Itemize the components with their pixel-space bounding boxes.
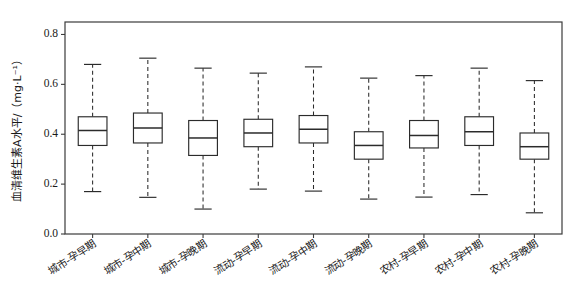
y-axis-label: 血清维生素A水平/（mg·L⁻¹） bbox=[10, 54, 24, 202]
x-tick-label: 流动-孕早期 bbox=[212, 238, 264, 277]
x-tick-label: 流动-孕晚期 bbox=[322, 238, 374, 277]
x-tick-label: 城市-孕早期 bbox=[46, 238, 98, 277]
y-tick-label: 0.0 bbox=[44, 227, 59, 239]
x-tick-label: 农村-孕晚期 bbox=[488, 238, 540, 277]
y-tick-label: 0.8 bbox=[44, 27, 59, 39]
x-tick-label: 城市-孕中期 bbox=[101, 238, 153, 277]
x-tick-label: 农村-孕中期 bbox=[433, 238, 485, 277]
x-tick-label: 流动-孕中期 bbox=[267, 238, 319, 277]
y-tick-label: 0.4 bbox=[44, 127, 59, 139]
y-tick-label: 0.6 bbox=[44, 77, 59, 89]
x-tick-label: 城市-孕晚期 bbox=[156, 238, 208, 277]
chart-svg: 0.00.20.40.60.8血清维生素A水平/（mg·L⁻¹）城市-孕早期城市… bbox=[0, 0, 580, 300]
x-tick-label: 农村-孕早期 bbox=[377, 238, 429, 277]
boxplot-figure: 0.00.20.40.60.8血清维生素A水平/（mg·L⁻¹）城市-孕早期城市… bbox=[0, 0, 580, 300]
box-iqr bbox=[410, 121, 439, 148]
y-tick-label: 0.2 bbox=[44, 177, 59, 189]
